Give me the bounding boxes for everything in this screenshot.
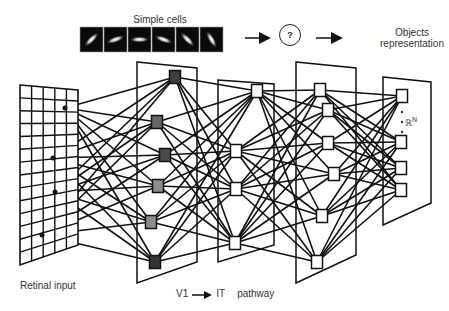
ellipsis-dots bbox=[401, 111, 403, 133]
gabor-filter-icon bbox=[128, 27, 151, 52]
gabor-filter-icon bbox=[104, 27, 127, 52]
layer-2-node bbox=[152, 116, 163, 129]
output-node bbox=[396, 162, 407, 175]
output-node bbox=[397, 90, 408, 103]
retina-grid bbox=[20, 85, 78, 265]
layer-4-node bbox=[315, 84, 326, 97]
feature-space-label: ℝN bbox=[405, 116, 417, 128]
layer-3-node bbox=[252, 85, 263, 98]
layer-3-node bbox=[231, 145, 242, 158]
simple-cells-strip bbox=[80, 27, 223, 52]
layer-3-node bbox=[231, 183, 242, 196]
real-numbers-symbol: ℝ bbox=[405, 118, 412, 128]
objects-representation-label: Objects representation bbox=[372, 27, 449, 49]
layer-4-node bbox=[329, 168, 340, 181]
objects-label-line1: Objects bbox=[372, 27, 449, 38]
output-node bbox=[396, 184, 407, 197]
retina-node bbox=[53, 190, 58, 195]
retina-node bbox=[51, 156, 56, 161]
gabor-filter-icon bbox=[152, 27, 175, 52]
retina-node bbox=[63, 106, 68, 111]
gabor-filter-icon bbox=[200, 27, 223, 52]
pathway-label: V1 IT pathway bbox=[176, 288, 274, 299]
layer-2-node bbox=[153, 180, 164, 193]
layer-2-node bbox=[150, 256, 161, 269]
layer-2-node bbox=[146, 216, 157, 229]
layer-4-node bbox=[323, 104, 334, 117]
connections bbox=[42, 77, 402, 262]
layer-4-node bbox=[312, 256, 323, 269]
simple-cells-label: Simple cells bbox=[100, 14, 220, 25]
pathway-end-label: IT bbox=[216, 288, 225, 299]
layer-2-node bbox=[170, 71, 181, 84]
arrow-icon bbox=[192, 289, 212, 299]
layer-4-node bbox=[317, 210, 328, 223]
gabor-filter-icon bbox=[176, 27, 199, 52]
retina-node bbox=[40, 233, 45, 238]
layer-4-node bbox=[323, 137, 334, 150]
layer-3-node bbox=[230, 237, 241, 250]
pathway-word-label: pathway bbox=[237, 288, 274, 299]
pathway-start-label: V1 bbox=[176, 288, 188, 299]
unknown-stage-circle: ? bbox=[279, 24, 301, 46]
dimension-exponent: N bbox=[412, 116, 417, 123]
layer-2-node bbox=[160, 149, 171, 162]
gabor-filter-icon bbox=[80, 27, 103, 52]
output-node bbox=[396, 136, 407, 149]
retinal-input-label: Retinal input bbox=[20, 280, 76, 291]
objects-label-line2: representation bbox=[372, 38, 449, 49]
